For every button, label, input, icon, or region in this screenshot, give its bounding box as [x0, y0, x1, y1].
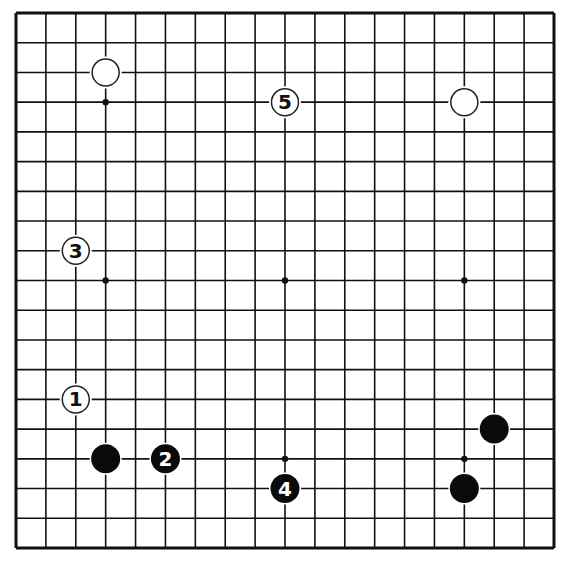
black-stone [90, 443, 122, 475]
star-point [102, 277, 108, 283]
white-stone [448, 86, 480, 118]
move-number: 1 [69, 387, 83, 411]
black-stone [478, 413, 510, 445]
star-point [282, 456, 288, 462]
white-stone-5: 5 [269, 86, 301, 118]
white-stone-3: 3 [60, 235, 92, 267]
star-point [102, 99, 108, 105]
move-number: 3 [69, 239, 83, 263]
black-stone-4: 4 [269, 473, 301, 505]
move-number: 5 [278, 90, 292, 114]
white-stone-1: 1 [60, 383, 92, 415]
move-number: 4 [278, 477, 292, 501]
star-point [461, 456, 467, 462]
go-board: 12345 [0, 0, 564, 561]
white-stone [90, 56, 122, 88]
move-number: 2 [158, 447, 172, 471]
black-stone-2: 2 [149, 443, 181, 475]
black-stone [448, 473, 480, 505]
star-point [461, 277, 467, 283]
star-point [282, 277, 288, 283]
